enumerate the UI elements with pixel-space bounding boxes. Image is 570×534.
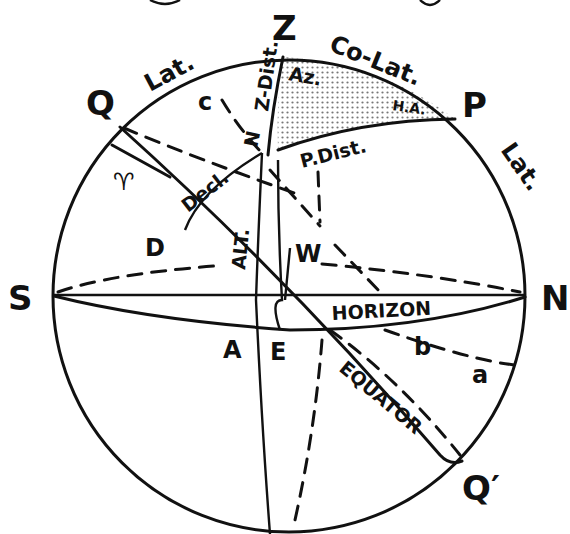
hour-circle (275, 160, 282, 330)
label-zenith-n: N (239, 129, 264, 149)
label-d: D (145, 234, 165, 262)
label-e: E (270, 338, 286, 366)
label-w: W (295, 240, 321, 268)
vertical-through-x-alt (256, 153, 270, 534)
label-declination: Decl. (177, 166, 233, 216)
label-equator: EQUATOR (335, 356, 427, 438)
w-marker (285, 248, 290, 300)
dashed-pd-w (318, 172, 320, 222)
horizon-back-dashed-right (322, 264, 520, 292)
label-altitude: ALT. (227, 227, 253, 270)
celestial-sphere-diagram: Z P Q S N Q′ A E D W ♈ a b c Lat. Co-Lat… (0, 0, 570, 534)
label-a: A (223, 336, 242, 364)
label-lat-right: Lat. (495, 137, 548, 196)
horizon-back-dashed (58, 266, 215, 292)
label-small-a: a (472, 361, 488, 389)
dashed-a (385, 330, 515, 365)
hour-circle-lower-dashed (295, 340, 322, 520)
label-zenith-distance: Z-Dist. (250, 39, 282, 113)
label-s: S (8, 278, 33, 318)
label-aries: ♈ (113, 168, 135, 196)
title-fragment (150, 0, 440, 5)
horizon-line-front (54, 296, 525, 330)
label-q: Q (86, 83, 115, 123)
label-q-prime: Q′ (462, 468, 500, 508)
label-lat-left: Lat. (140, 48, 199, 97)
label-n: N (541, 278, 569, 318)
label-small-b: b (414, 333, 431, 361)
label-small-c: c (198, 88, 212, 116)
label-p: P (462, 85, 487, 125)
